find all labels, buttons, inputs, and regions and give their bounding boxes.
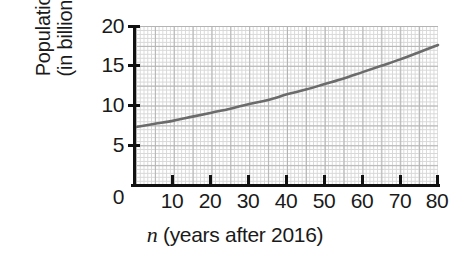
x-tick-label-30: 30 bbox=[228, 190, 268, 211]
y-tick-label-15: 15 bbox=[84, 54, 124, 75]
x-axis-title: n (years after 2016) bbox=[0, 222, 470, 248]
y-tick-label-5: 5 bbox=[84, 134, 124, 155]
x-tick-label-20: 20 bbox=[190, 190, 230, 211]
population-growth-chart: Population (in billions) 20 15 10 5 0 10… bbox=[0, 0, 470, 262]
y-tick-mark-10 bbox=[128, 104, 140, 107]
plot-area bbox=[136, 26, 438, 185]
population-curve bbox=[136, 26, 438, 185]
x-axis-title-rest: (years after 2016) bbox=[157, 223, 323, 246]
x-tick-mark-80 bbox=[436, 175, 439, 185]
y-axis-title-line2: (in billions) bbox=[55, 0, 77, 77]
x-tick-label-40: 40 bbox=[266, 190, 306, 211]
y-axis-title-line1: Population bbox=[33, 0, 55, 76]
x-axis-title-variable: n bbox=[147, 222, 158, 247]
x-tick-label-60: 60 bbox=[342, 190, 382, 211]
x-tick-mark-50 bbox=[323, 175, 326, 185]
y-tick-label-0: 0 bbox=[84, 186, 124, 207]
x-tick-label-50: 50 bbox=[304, 190, 344, 211]
y-tick-label-20: 20 bbox=[84, 15, 124, 36]
y-tick-mark-5 bbox=[128, 144, 140, 147]
x-tick-mark-70 bbox=[399, 175, 402, 185]
x-tick-mark-20 bbox=[209, 175, 212, 185]
x-tick-mark-10 bbox=[171, 175, 174, 185]
x-tick-label-80: 80 bbox=[417, 190, 457, 211]
x-tick-mark-60 bbox=[361, 175, 364, 185]
y-tick-mark-20 bbox=[128, 25, 140, 28]
y-tick-label-10: 10 bbox=[84, 94, 124, 115]
x-tick-mark-30 bbox=[247, 175, 250, 185]
x-tick-mark-40 bbox=[285, 175, 288, 185]
x-tick-label-10: 10 bbox=[152, 190, 192, 211]
y-tick-mark-15 bbox=[128, 64, 140, 67]
x-tick-label-70: 70 bbox=[380, 190, 420, 211]
